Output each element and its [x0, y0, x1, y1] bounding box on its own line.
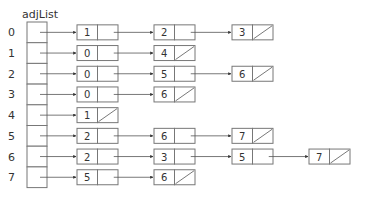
node-value: 0 [84, 69, 90, 80]
node-value: 6 [161, 89, 167, 100]
row-index-label: 4 [8, 109, 15, 122]
row-index-label: 7 [8, 171, 15, 184]
node-value: 3 [239, 27, 245, 38]
node-value: 5 [161, 69, 167, 80]
node-value: 5 [84, 172, 90, 183]
node-value: 6 [239, 69, 245, 80]
node-value: 4 [161, 48, 167, 59]
node-value: 0 [84, 48, 90, 59]
node-value: 7 [316, 152, 322, 163]
node-value: 2 [161, 27, 167, 38]
node-value: 6 [161, 131, 167, 142]
node-value: 2 [84, 152, 90, 163]
node-value: 5 [239, 152, 245, 163]
node-value: 1 [84, 110, 90, 121]
node-value: 2 [84, 131, 90, 142]
adjacency-list-diagram: adjList 0123104205630641526762357756 [0, 0, 375, 204]
row-index-label: 6 [8, 151, 15, 164]
row-index-label: 1 [8, 47, 15, 60]
node-value: 6 [161, 172, 167, 183]
node-value: 0 [84, 89, 90, 100]
row-index-label: 5 [8, 130, 15, 143]
row-index-label: 0 [8, 26, 15, 39]
node-value: 1 [84, 27, 90, 38]
node-value: 7 [239, 131, 245, 142]
row-index-label: 3 [8, 88, 15, 101]
array-title: adjList [22, 8, 59, 21]
node-value: 3 [161, 152, 167, 163]
row-index-label: 2 [8, 68, 15, 81]
